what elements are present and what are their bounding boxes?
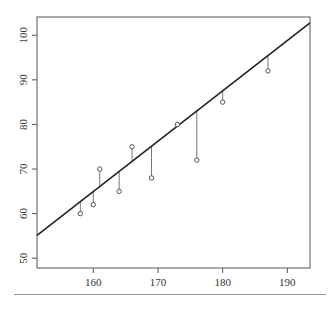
- x-tick-label: 170: [150, 276, 167, 288]
- x-axis: 160170180190: [85, 268, 296, 288]
- data-point: [117, 189, 121, 193]
- fit-line: [37, 23, 310, 236]
- y-tick-label: 100: [17, 27, 29, 44]
- data-point: [91, 202, 95, 206]
- data-points: [78, 69, 270, 216]
- data-point: [130, 145, 134, 149]
- data-point: [175, 122, 179, 126]
- y-tick-label: 50: [17, 252, 29, 264]
- y-tick-label: 80: [17, 118, 29, 130]
- data-point: [220, 100, 224, 104]
- data-point: [149, 176, 153, 180]
- y-tick-label: 70: [17, 163, 29, 175]
- x-tick-label: 160: [85, 276, 102, 288]
- x-tick-label: 190: [279, 276, 296, 288]
- y-axis: 5060708090100: [17, 27, 37, 264]
- data-point: [98, 167, 102, 171]
- data-point: [266, 69, 270, 73]
- data-point: [78, 211, 82, 215]
- data-point: [195, 158, 199, 162]
- separator-line: [14, 294, 326, 295]
- regression-line: [37, 23, 310, 236]
- scatter-plot: 5060708090100 160170180190: [0, 0, 336, 311]
- y-tick-label: 90: [17, 74, 29, 86]
- y-tick-label: 60: [17, 208, 29, 220]
- x-tick-label: 180: [214, 276, 231, 288]
- residual-lines: [80, 56, 268, 214]
